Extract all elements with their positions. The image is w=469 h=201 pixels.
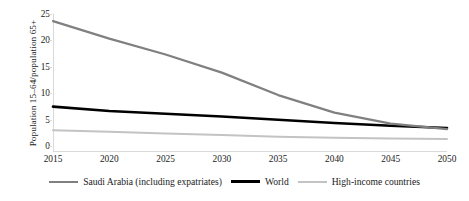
series-high-income-countries — [53, 130, 447, 139]
x-tick-label: 2025 — [156, 154, 175, 164]
x-tick-label: 2045 — [381, 154, 400, 164]
x-tick-label: 2040 — [325, 154, 344, 164]
series-world — [53, 107, 447, 128]
legend-label: High-income countries — [332, 176, 420, 187]
legend-item-high-income-countries: High-income countries — [298, 176, 420, 187]
chart-legend: Saudi Arabia (including expatriates) Wor… — [0, 176, 469, 187]
series-layer — [0, 0, 469, 201]
legend-line-icon — [298, 181, 327, 183]
x-tick-label: 2030 — [213, 154, 232, 164]
legend-label: Saudi Arabia (including expatriates) — [83, 176, 222, 187]
x-tick-label: 2020 — [100, 154, 119, 164]
x-tick-label: 2035 — [269, 154, 288, 164]
x-tick-label: 2015 — [44, 154, 63, 164]
legend-item-saudi-arabia: Saudi Arabia (including expatriates) — [49, 176, 222, 187]
x-axis-tick-labels: 2015 2020 2025 2030 2035 2040 2045 2050 — [53, 154, 447, 168]
x-tick-label: 2050 — [438, 154, 457, 164]
legend-line-icon — [49, 181, 78, 183]
legend-line-icon — [231, 180, 260, 183]
line-chart: Population 15–64/population 65+ 25 20 15… — [0, 0, 469, 201]
legend-item-world: World — [231, 176, 289, 187]
legend-label: World — [265, 176, 289, 187]
series-saudi-arabia — [53, 21, 447, 129]
